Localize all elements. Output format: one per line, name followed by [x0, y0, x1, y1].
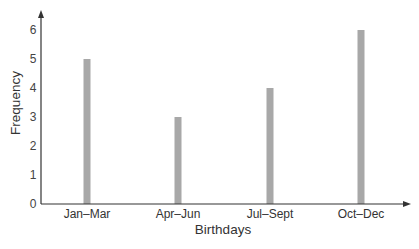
- x-axis-label: Birthdays: [195, 222, 252, 237]
- y-tick-label: 3: [30, 110, 37, 124]
- x-ticks: Jan–MarApr–JunJul–SeptOct–Dec: [64, 207, 385, 221]
- bar-chart: 0123456 Jan–MarApr–JunJul–SeptOct–Dec Bi…: [0, 0, 419, 249]
- y-tick-label: 0: [30, 197, 37, 211]
- bar-2: [267, 88, 274, 204]
- bar-1: [175, 117, 182, 204]
- bar-3: [358, 30, 365, 204]
- bars: [84, 30, 365, 204]
- y-tick-label: 4: [30, 81, 37, 95]
- y-tick-label: 6: [30, 23, 37, 37]
- y-tick-label: 5: [30, 52, 37, 66]
- y-tick-label: 1: [30, 168, 37, 182]
- y-tick-label: 2: [30, 139, 37, 153]
- y-axis-arrow-icon: [38, 10, 44, 18]
- x-tick-label: Jul–Sept: [247, 207, 294, 221]
- y-ticks: 0123456: [30, 23, 37, 211]
- bar-0: [84, 59, 91, 204]
- x-axis-arrow-icon: [403, 201, 411, 207]
- x-tick-label: Apr–Jun: [156, 207, 201, 221]
- x-tick-label: Oct–Dec: [338, 207, 385, 221]
- y-axis-label: Frequency: [8, 71, 23, 135]
- x-tick-label: Jan–Mar: [64, 207, 111, 221]
